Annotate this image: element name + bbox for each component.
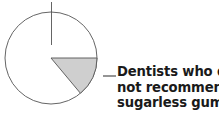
callout-label-line-2: not recommend <box>117 80 219 96</box>
pie-chart-figure: Dentists who do not recommend sugarless … <box>0 0 219 119</box>
callout-label: Dentists who do not recommend sugarless … <box>117 64 219 111</box>
callout-label-line-3: sugarless gum <box>117 95 219 111</box>
callout-label-line-1: Dentists who do <box>117 64 219 80</box>
